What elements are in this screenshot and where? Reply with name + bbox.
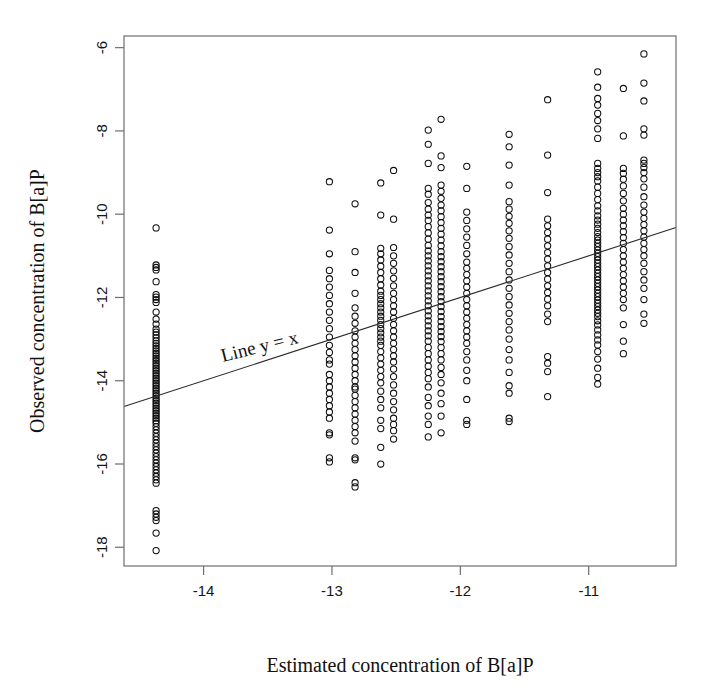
x-axis-title: Estimated concentration of B[a]P [266, 654, 533, 676]
y-tick-label: -16 [93, 453, 110, 475]
y-tick-label: -6 [93, 41, 110, 54]
x-tick-label: -11 [578, 582, 599, 599]
x-tick-label: -13 [321, 582, 343, 599]
x-tick-label: -14 [193, 582, 215, 599]
y-tick-label: -12 [93, 287, 110, 309]
scatter-plot-figure: -14-13-12-11 -6-8-10-12-14-16-18 Estimat… [0, 0, 713, 688]
x-tick-label: -12 [449, 582, 471, 599]
y-tick-label: -8 [93, 124, 110, 137]
y-tick-label: -10 [93, 203, 110, 225]
y-tick-label: -18 [93, 536, 110, 558]
plot-canvas: -14-13-12-11 -6-8-10-12-14-16-18 Estimat… [0, 0, 713, 688]
y-tick-label: -14 [93, 370, 110, 392]
figure-background [0, 0, 713, 688]
y-axis-title: Observed concentration of B[a]P [26, 169, 48, 433]
